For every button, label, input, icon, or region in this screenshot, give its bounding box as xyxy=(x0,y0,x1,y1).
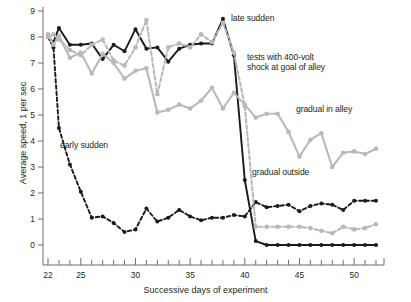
data-point xyxy=(221,20,226,25)
data-point xyxy=(166,108,171,113)
annotation-gradual-in-alley: gradual in alley xyxy=(296,104,352,115)
data-point xyxy=(144,18,149,23)
data-point xyxy=(100,37,105,42)
y-tick-label: 2 xyxy=(30,188,35,198)
data-point xyxy=(221,17,225,21)
x-tick-label: 35 xyxy=(185,270,195,280)
data-point xyxy=(177,102,182,107)
data-point xyxy=(188,214,192,218)
data-point xyxy=(188,106,193,111)
x-tick-label: 25 xyxy=(76,270,86,280)
x-tick-label: 30 xyxy=(131,270,141,280)
series-markers-late-sudden xyxy=(46,17,378,247)
data-point xyxy=(79,53,84,58)
x-tick-label: 50 xyxy=(349,270,359,280)
data-point xyxy=(133,69,138,74)
data-point xyxy=(275,111,280,116)
x-tick-label: 40 xyxy=(240,270,250,280)
x-tick-label: 22 xyxy=(43,270,53,280)
series-line-late-sudden xyxy=(48,19,376,245)
data-point xyxy=(265,243,269,247)
annotation-tests-shock-line2: shock at goal of alley xyxy=(247,62,325,73)
data-point xyxy=(89,43,94,48)
data-point xyxy=(374,147,379,152)
data-point xyxy=(341,225,346,230)
data-point xyxy=(374,199,378,203)
data-point xyxy=(286,225,291,230)
data-point xyxy=(253,225,258,230)
y-tick-label: 5 xyxy=(30,110,35,120)
data-point xyxy=(51,32,56,37)
data-point xyxy=(276,204,280,208)
data-point xyxy=(133,45,138,50)
data-point xyxy=(166,216,170,220)
data-point xyxy=(90,216,94,220)
data-point xyxy=(100,52,105,57)
data-point xyxy=(243,178,247,182)
data-point xyxy=(68,162,72,166)
data-point xyxy=(264,111,269,116)
data-point xyxy=(363,226,368,231)
y-tick-label: 8 xyxy=(30,32,35,42)
data-point xyxy=(144,47,148,51)
y-tick-label: 7 xyxy=(30,58,35,68)
data-point xyxy=(253,115,258,120)
data-point xyxy=(111,58,116,63)
data-point xyxy=(265,205,269,209)
data-point xyxy=(133,227,137,231)
data-point xyxy=(210,216,214,220)
y-tick-label: 9 xyxy=(30,6,35,16)
data-point xyxy=(287,243,291,247)
data-point xyxy=(177,208,181,212)
data-point xyxy=(287,203,291,207)
data-point xyxy=(330,165,335,170)
data-point xyxy=(232,91,237,96)
annotation-gradual-outside: gradual outside xyxy=(252,167,309,178)
data-point xyxy=(243,214,247,218)
data-point xyxy=(122,63,127,68)
data-point xyxy=(308,137,313,142)
series-line-early-sudden xyxy=(48,37,376,232)
data-point xyxy=(199,218,203,222)
data-point xyxy=(297,225,302,230)
annotation-early-sudden: early sudden xyxy=(60,140,108,151)
data-point xyxy=(144,66,149,71)
data-point xyxy=(319,228,324,233)
data-point xyxy=(57,126,61,130)
data-point xyxy=(341,208,345,212)
data-point xyxy=(308,204,312,208)
data-point xyxy=(330,231,335,236)
data-point xyxy=(308,243,312,247)
data-point xyxy=(79,43,83,47)
data-point xyxy=(330,203,334,207)
data-point xyxy=(297,209,301,213)
data-point xyxy=(341,243,345,247)
data-point xyxy=(112,221,116,225)
data-point xyxy=(101,214,105,218)
annotation-late-sudden: late sudden xyxy=(231,13,274,24)
y-tick-label: 6 xyxy=(30,84,35,94)
data-point xyxy=(352,243,356,247)
data-point xyxy=(254,239,258,243)
data-point xyxy=(144,207,148,211)
data-point xyxy=(308,226,313,231)
data-point xyxy=(286,130,291,135)
y-tick-label: 4 xyxy=(30,136,35,146)
data-point xyxy=(112,43,116,47)
data-point xyxy=(46,35,51,40)
data-point xyxy=(275,225,280,230)
x-tick-label: 45 xyxy=(295,270,305,280)
data-point xyxy=(68,43,72,47)
data-point xyxy=(374,222,379,227)
y-tick-label: 0 xyxy=(30,240,35,250)
data-point xyxy=(122,76,127,81)
data-point xyxy=(177,41,182,46)
data-point xyxy=(89,71,94,76)
data-point xyxy=(297,154,302,159)
data-point xyxy=(199,32,204,37)
chart-figure: 012345678922253035404550 Average speed, … xyxy=(0,0,411,302)
data-point xyxy=(221,106,226,111)
data-point xyxy=(341,150,346,155)
data-series xyxy=(46,17,379,247)
data-point xyxy=(319,201,323,205)
